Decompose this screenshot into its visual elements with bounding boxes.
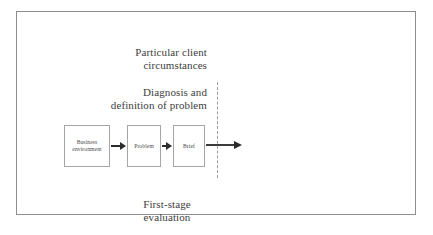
label-diagnosis-definition-of-problem: Diagnosis and definition of problem <box>47 86 207 112</box>
box-label-line-1: Business <box>77 139 98 145</box>
label-line-1: Particular client <box>57 46 207 59</box>
label-line-1: Diagnosis and <box>47 86 207 99</box>
arrow-brief-output <box>206 144 234 146</box>
label-first-stage-evaluation: First-stage evaluation <box>127 198 207 224</box>
box-label: Business environment <box>70 139 103 153</box>
label-particular-client-circumstances: Particular client circumstances <box>57 46 207 72</box>
box-business-environment: Business environment <box>64 125 110 167</box>
label-line-2: definition of problem <box>47 99 207 112</box>
arrow-business-to-problem <box>111 145 121 147</box>
box-label-line-2: environment <box>72 146 101 152</box>
box-problem: Problem <box>127 125 161 167</box>
arrow-problem-to-brief <box>162 145 167 147</box>
diagram-frame: Particular client circumstances Diagnosi… <box>16 11 416 215</box>
label-line-2: circumstances <box>57 59 207 72</box>
box-label: Problem <box>132 143 156 150</box>
box-label: Brief <box>181 143 197 150</box>
box-brief: Brief <box>173 125 205 167</box>
label-line-2: evaluation <box>127 211 207 224</box>
label-line-1: First-stage <box>127 198 207 211</box>
diagram-canvas: Particular client circumstances Diagnosi… <box>0 0 433 235</box>
dashed-stage-divider <box>217 82 218 178</box>
